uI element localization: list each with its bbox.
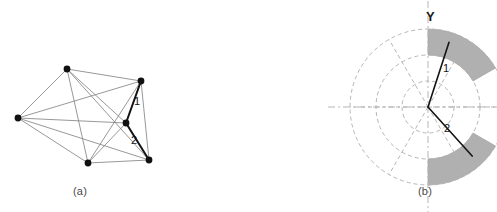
figure-root: 1 2 (a) Y X 1 2 (b) Y X 1 2 (c): [0, 0, 497, 212]
graph-node[interactable]: [15, 115, 22, 122]
panel-a-graph: 1 2 (a): [0, 0, 170, 212]
panel-b-polar: Y X 1 2 (b): [170, 0, 335, 212]
panel-c-grid: Y X 1 2 (c): [335, 0, 497, 212]
graph-edge: [18, 118, 149, 160]
panel-a-edge-label-2: 2: [131, 135, 137, 146]
graph-node[interactable]: [64, 66, 71, 73]
graph-node[interactable]: [123, 120, 130, 127]
panel-a-edge-label-1: 1: [134, 96, 140, 107]
graph-node[interactable]: [146, 157, 153, 164]
graph-edge: [88, 123, 126, 163]
panel-c-canvas: [335, 0, 497, 212]
graph-edge: [88, 160, 149, 163]
graph-edge: [67, 69, 88, 163]
graph-edge: [18, 118, 88, 163]
graph-edge: [18, 118, 126, 123]
graph-node[interactable]: [138, 78, 145, 85]
panel-a-caption: (a): [60, 185, 100, 197]
panel-a-canvas: [0, 0, 170, 212]
graph-node[interactable]: [85, 160, 92, 167]
